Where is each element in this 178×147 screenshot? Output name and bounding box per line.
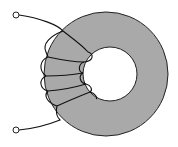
toroidal-inductor-diagram (0, 0, 178, 147)
lead-top (19, 15, 63, 31)
terminal-top (13, 12, 19, 18)
terminal-bottom (13, 127, 19, 133)
lead-bottom (19, 106, 60, 130)
